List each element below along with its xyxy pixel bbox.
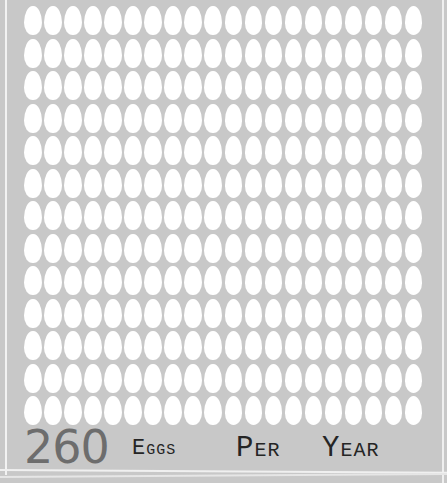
egg-icon	[345, 234, 363, 263]
egg-icon	[285, 104, 303, 133]
egg-icon	[265, 201, 283, 230]
egg-icon	[64, 201, 82, 230]
egg-icon	[44, 201, 62, 230]
egg-icon	[144, 6, 162, 35]
egg-icon	[225, 104, 243, 133]
egg-icon	[385, 266, 403, 295]
egg-icon	[84, 136, 102, 165]
egg-icon	[305, 201, 323, 230]
egg-icon	[164, 364, 182, 393]
egg-icon	[164, 71, 182, 100]
egg-icon	[104, 201, 122, 230]
egg-icon	[345, 331, 363, 360]
egg-icon	[124, 299, 142, 328]
egg-icon	[64, 331, 82, 360]
egg-icon	[104, 266, 122, 295]
egg-icon	[24, 39, 42, 68]
egg-icon	[345, 299, 363, 328]
egg-icon	[164, 299, 182, 328]
egg-icon	[225, 266, 243, 295]
egg-count: 260	[24, 424, 109, 470]
egg-icon	[225, 234, 243, 263]
egg-icon	[305, 136, 323, 165]
egg-icon	[365, 234, 383, 263]
egg-icon	[44, 169, 62, 198]
egg-icon	[345, 169, 363, 198]
egg-icon	[385, 364, 403, 393]
egg-icon	[204, 201, 222, 230]
caption-word-per: Per	[236, 434, 280, 464]
egg-icon	[405, 39, 423, 68]
egg-icon	[184, 396, 202, 425]
egg-icon	[305, 234, 323, 263]
egg-icon	[44, 234, 62, 263]
egg-icon	[184, 266, 202, 295]
egg-icon	[365, 331, 383, 360]
egg-icon	[245, 234, 263, 263]
egg-icon	[84, 104, 102, 133]
egg-icon	[285, 201, 303, 230]
egg-icon	[405, 331, 423, 360]
egg-icon	[204, 169, 222, 198]
egg-icon	[104, 299, 122, 328]
egg-icon	[144, 299, 162, 328]
egg-icon	[184, 136, 202, 165]
egg-icon	[144, 39, 162, 68]
egg-icon	[144, 364, 162, 393]
egg-icon	[164, 201, 182, 230]
egg-icon	[245, 266, 263, 295]
egg-icon	[245, 201, 263, 230]
egg-icon	[365, 396, 383, 425]
egg-icon	[265, 169, 283, 198]
egg-icon	[104, 71, 122, 100]
egg-icon	[64, 71, 82, 100]
egg-icon	[64, 136, 82, 165]
caption-word-eggs: Eggs	[132, 434, 176, 464]
egg-icon	[24, 201, 42, 230]
egg-icon	[124, 201, 142, 230]
egg-icon	[385, 299, 403, 328]
egg-icon	[184, 104, 202, 133]
egg-icon	[44, 136, 62, 165]
egg-icon	[225, 6, 243, 35]
egg-icon	[164, 6, 182, 35]
egg-icon	[285, 136, 303, 165]
egg-icon	[124, 234, 142, 263]
egg-icon	[204, 234, 222, 263]
egg-icon	[225, 396, 243, 425]
egg-icon	[305, 104, 323, 133]
egg-icon	[305, 396, 323, 425]
egg-icon	[225, 39, 243, 68]
egg-icon	[225, 169, 243, 198]
egg-icon	[405, 104, 423, 133]
egg-icon	[204, 6, 222, 35]
egg-icon	[225, 299, 243, 328]
egg-icon	[84, 364, 102, 393]
egg-icon	[385, 169, 403, 198]
egg-icon	[365, 71, 383, 100]
egg-icon	[204, 104, 222, 133]
egg-icon	[144, 169, 162, 198]
egg-icon	[225, 331, 243, 360]
egg-icon	[104, 169, 122, 198]
egg-icon	[245, 104, 263, 133]
egg-icon	[24, 104, 42, 133]
egg-icon	[245, 136, 263, 165]
egg-icon	[385, 136, 403, 165]
egg-icon	[144, 104, 162, 133]
egg-icon	[124, 331, 142, 360]
egg-icon	[144, 331, 162, 360]
egg-icon	[285, 169, 303, 198]
egg-icon	[225, 201, 243, 230]
egg-icon	[325, 169, 343, 198]
egg-icon	[265, 266, 283, 295]
egg-icon	[405, 299, 423, 328]
egg-icon	[164, 39, 182, 68]
egg-icon	[265, 299, 283, 328]
egg-icon	[44, 104, 62, 133]
egg-icon	[405, 71, 423, 100]
egg-icon	[144, 136, 162, 165]
egg-icon	[225, 71, 243, 100]
egg-icon	[164, 169, 182, 198]
egg-icon	[44, 331, 62, 360]
